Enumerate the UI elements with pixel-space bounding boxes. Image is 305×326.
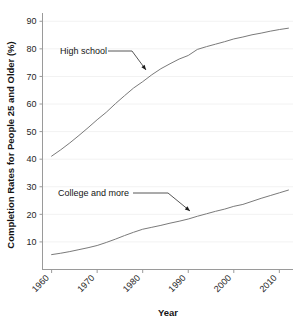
annotation-label-college-and-more: College and more [58, 188, 129, 198]
y-tick-label-20: 20 [26, 210, 36, 220]
x-axis-title: Year [158, 307, 178, 318]
y-tick-label-40: 40 [26, 154, 36, 164]
y-tick-label-70: 70 [26, 72, 36, 82]
chart-container: 102030405060708090 196019701980199020002… [0, 0, 305, 326]
y-tick-label-90: 90 [26, 16, 36, 26]
annotation-label-high-school: High school [60, 46, 107, 56]
y-tick-label-80: 80 [26, 44, 36, 54]
y-axis-title: Completion Rates for People 25 and Older… [5, 41, 16, 248]
completion-rates-line-chart: 102030405060708090 196019701980199020002… [0, 0, 305, 326]
y-tick-label-30: 30 [26, 182, 36, 192]
y-tick-label-10: 10 [26, 237, 36, 247]
y-tick-label-50: 50 [26, 127, 36, 137]
y-tick-label-60: 60 [26, 99, 36, 109]
